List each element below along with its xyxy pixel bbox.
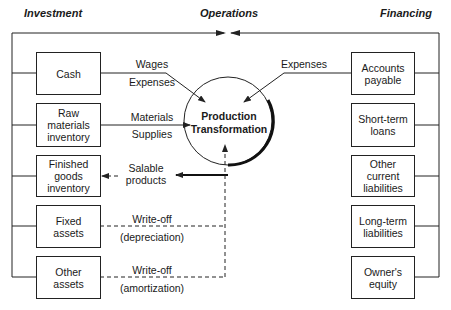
label-depreciation: (depreciation) <box>108 231 196 243</box>
production-transformation-label: Production Transformation <box>186 110 272 136</box>
label-expenses-right: Expenses <box>270 58 338 70</box>
box-other-current-liabilities: Other current liabilities <box>351 155 415 197</box>
header-operations: Operations <box>200 7 258 19</box>
label-writeoff-depreciation: Write-off <box>112 213 192 225</box>
label-amortization: (amortization) <box>108 282 196 294</box>
label-wages: Wages <box>122 58 182 70</box>
box-finished-goods-inventory: Finished goods inventory <box>36 155 101 197</box>
label-writeoff-amortization: Write-off <box>112 264 192 276</box>
box-cash: Cash <box>36 52 101 95</box>
label-salable-products: Salable products <box>118 162 174 186</box>
header-investment: Investment <box>24 7 82 19</box>
arrow-right-top-icon <box>216 30 226 36</box>
box-owners-equity: Owner's equity <box>351 256 415 299</box>
label-supplies: Supplies <box>118 128 186 140</box>
box-short-term-loans: Short-term loans <box>351 103 415 147</box>
header-financing: Financing <box>380 7 432 19</box>
label-materials: Materials <box>118 111 186 123</box>
arrow-left-top-icon <box>230 30 240 36</box>
box-fixed-assets: Fixed assets <box>36 205 101 248</box>
box-other-assets: Other assets <box>36 256 101 299</box>
box-raw-materials-inventory: Raw materials inventory <box>36 103 101 147</box>
box-accounts-payable: Accounts payable <box>351 52 415 95</box>
label-expenses-left: Expenses <box>118 76 186 88</box>
box-long-term-liabilities: Long-term liabilities <box>351 205 415 248</box>
